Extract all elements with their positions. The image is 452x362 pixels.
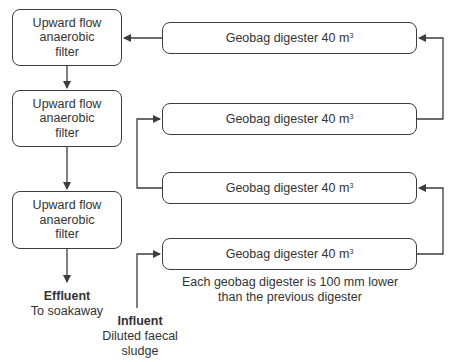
filter-label-line1: Upward flow: [33, 16, 102, 31]
digester-unit-superscript: 3: [349, 32, 353, 39]
digester-label-text: Geobag digester 40 m: [226, 112, 350, 126]
upward-flow-anaerobic-filter-1: Upward flow anaerobic filter: [12, 9, 122, 66]
geobag-digester-1: Geobag digester 40 m3: [162, 22, 417, 54]
influent-subtitle-line2: sludge: [92, 344, 188, 359]
filter-label-line1: Upward flow: [33, 198, 102, 213]
digester-unit-superscript: 3: [349, 113, 353, 120]
filter-label-line2: anaerobic: [33, 213, 102, 228]
note-line1: Each geobag digester is 100 mm lower: [170, 275, 410, 290]
influent-label: Influent Diluted faecal sludge: [92, 314, 188, 359]
filter-label-line1: Upward flow: [33, 97, 102, 112]
filter-label-line3: filter: [33, 45, 102, 60]
influent-subtitle-line1: Diluted faecal: [92, 329, 188, 344]
digester-label-text: Geobag digester 40 m: [226, 31, 350, 45]
digester-label: Geobag digester 40 m3: [226, 181, 354, 196]
upward-flow-anaerobic-filter-2: Upward flow anaerobic filter: [12, 90, 122, 147]
geobag-digester-4: Geobag digester 40 m3: [162, 238, 417, 270]
digester-unit-superscript: 3: [349, 182, 353, 189]
effluent-title: Effluent: [44, 289, 91, 303]
influent-title: Influent: [117, 314, 162, 328]
digester-label-text: Geobag digester 40 m: [226, 181, 350, 195]
note-line2: than the previous digester: [170, 290, 410, 305]
digester-label: Geobag digester 40 m3: [226, 112, 354, 127]
digester-label: Geobag digester 40 m3: [226, 247, 354, 262]
geobag-digester-3: Geobag digester 40 m3: [162, 172, 417, 204]
filter-label-line3: filter: [33, 126, 102, 141]
digester-height-note: Each geobag digester is 100 mm lower tha…: [170, 275, 410, 305]
filter-label-line2: anaerobic: [33, 30, 102, 45]
filter-label-line2: anaerobic: [33, 111, 102, 126]
geobag-digester-2: Geobag digester 40 m3: [162, 103, 417, 135]
digester-label-text: Geobag digester 40 m: [226, 247, 350, 261]
filter-label-line3: filter: [33, 227, 102, 242]
digester-label: Geobag digester 40 m3: [226, 31, 354, 46]
upward-flow-anaerobic-filter-3: Upward flow anaerobic filter: [12, 191, 122, 249]
digester-unit-superscript: 3: [349, 248, 353, 255]
